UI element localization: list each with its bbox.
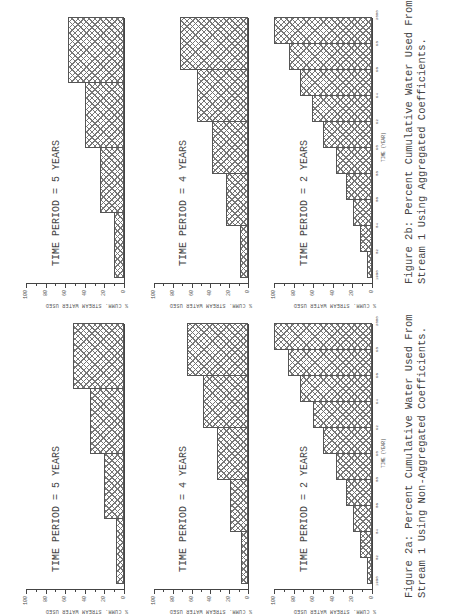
bar (360, 225, 372, 252)
chart-2a-p4: % CUMM. STREAM WATER USED020406080100TIM… (150, 306, 258, 612)
y-tick-label: 60 (189, 596, 195, 610)
y-tick (343, 284, 344, 286)
y-tick (163, 284, 164, 286)
y-tick (36, 590, 37, 592)
bar (187, 323, 248, 376)
y-tick (352, 590, 353, 594)
x-tick-label: 94 (375, 399, 379, 404)
y-tick-label: 0 (121, 596, 127, 610)
y-tick (163, 590, 164, 592)
x-tick-label: 92 (375, 425, 379, 430)
y-tick (104, 590, 105, 594)
bar (346, 479, 372, 506)
x-tick-label: 84 (375, 529, 379, 534)
y-tick (303, 284, 304, 286)
bar (226, 173, 248, 226)
x-tick-label: 92 (375, 119, 379, 124)
bar (336, 453, 372, 480)
bar (353, 505, 372, 532)
x-tick-label: 96 (375, 67, 379, 72)
x-tick-label: 1980 (375, 576, 379, 586)
y-tick-label: 0 (369, 596, 375, 610)
bar (353, 199, 372, 226)
y-tick (248, 284, 249, 288)
bar (274, 323, 372, 350)
y-tick-label: 80 (43, 596, 49, 610)
y-tick-label: 20 (101, 596, 107, 610)
x-tick-label: 82 (375, 249, 379, 254)
x-axis (124, 324, 125, 590)
x-tick-label: 90 (375, 451, 379, 456)
y-tick-label: 100 (23, 290, 29, 304)
y-tick-label: 40 (330, 596, 336, 610)
y-tick-label: 40 (330, 290, 336, 304)
chart-2b-p4: % CUMM. STREAM WATER USED020406080100TIM… (150, 0, 258, 306)
y-tick-label: 80 (170, 290, 176, 304)
x-axis (372, 324, 373, 590)
bar (240, 225, 248, 278)
y-tick (210, 284, 211, 288)
bar (313, 401, 372, 428)
caption-line-1: Figure 2a: Percent Cumulative Water Used… (403, 314, 416, 598)
y-tick (75, 284, 76, 286)
y-tick-label: 80 (291, 596, 297, 610)
bar (323, 121, 372, 148)
figure-2b: % CUMM. STREAM WATER USED020406080100TIM… (0, 0, 454, 306)
bar (288, 349, 372, 376)
y-tick-label: 0 (121, 290, 127, 304)
y-tick (124, 590, 125, 594)
x-tick-label: 82 (375, 555, 379, 560)
y-tick-label: 60 (62, 290, 68, 304)
y-tick (65, 590, 66, 594)
bar (114, 212, 124, 278)
x-tick-label: 88 (375, 171, 379, 176)
bar (90, 388, 124, 454)
y-tick (294, 590, 295, 594)
chart-title: TIME PERIOD = 4 YEARS (178, 140, 189, 266)
bar (197, 69, 248, 122)
chart-2a-p2: % CUMM. STREAM WATER USED020406080100TIM… (270, 306, 382, 612)
y-tick (274, 284, 275, 288)
bar (241, 531, 248, 584)
y-tick (229, 284, 230, 288)
bar (230, 479, 248, 532)
x-tick-label: 2000 (375, 316, 379, 326)
y-tick (323, 590, 324, 592)
x-tick-label: 88 (375, 477, 379, 482)
y-tick (182, 284, 183, 286)
y-tick (372, 284, 373, 288)
y-tick-label: 80 (291, 290, 297, 304)
y-tick (248, 590, 249, 594)
bar (85, 82, 124, 148)
y-tick-label: 0 (245, 290, 251, 304)
y-tick (343, 590, 344, 592)
y-tick-label: 60 (62, 596, 68, 610)
caption-line-1: Figure 2b: Percent Cumulative Water Used… (403, 0, 416, 284)
chart-title: TIME PERIOD = 5 YEARS (51, 446, 62, 572)
bar (203, 375, 248, 428)
y-tick (46, 590, 47, 594)
y-tick-label: 20 (349, 290, 355, 304)
bar (367, 557, 372, 584)
bar (274, 17, 372, 44)
y-tick-label: 60 (189, 290, 195, 304)
y-tick (95, 284, 96, 286)
x-tick-label: 98 (375, 41, 379, 46)
y-tick (294, 284, 295, 288)
y-tick (284, 590, 285, 592)
x-axis (248, 18, 249, 284)
y-tick-label: 100 (271, 290, 277, 304)
y-tick (210, 590, 211, 594)
chart-title: TIME PERIOD = 2 YEARS (299, 140, 310, 266)
bar (300, 375, 372, 402)
y-tick (173, 590, 174, 594)
y-tick-label: 40 (82, 290, 88, 304)
y-tick (114, 590, 115, 592)
y-tick (201, 590, 202, 592)
y-tick (274, 590, 275, 594)
caption-line-2: Stream 1 Using Aggregated Coefficients. (416, 0, 429, 284)
y-tick (124, 284, 125, 288)
caption-line-2: Stream 1 Using Non-Aggregated Coefficien… (416, 314, 429, 598)
y-tick (220, 590, 221, 592)
y-tick-label: 100 (23, 596, 29, 610)
